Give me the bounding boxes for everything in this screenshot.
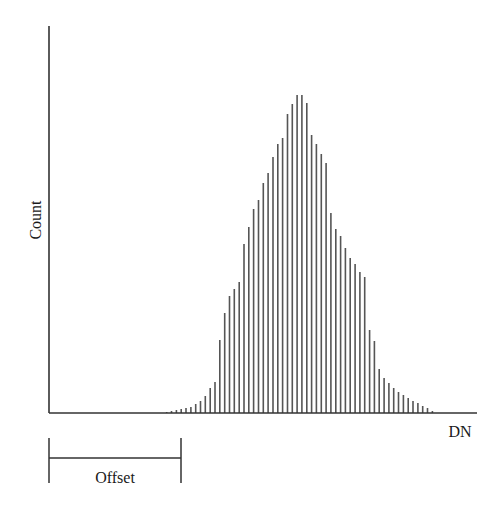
histogram-chart: Count DN Offset [0, 0, 499, 515]
offset-label: Offset [95, 469, 135, 486]
offset-bracket: Offset [49, 438, 181, 486]
histogram-bars [167, 95, 433, 413]
y-axis-label: Count [27, 200, 44, 240]
x-axis-label: DN [448, 423, 472, 440]
